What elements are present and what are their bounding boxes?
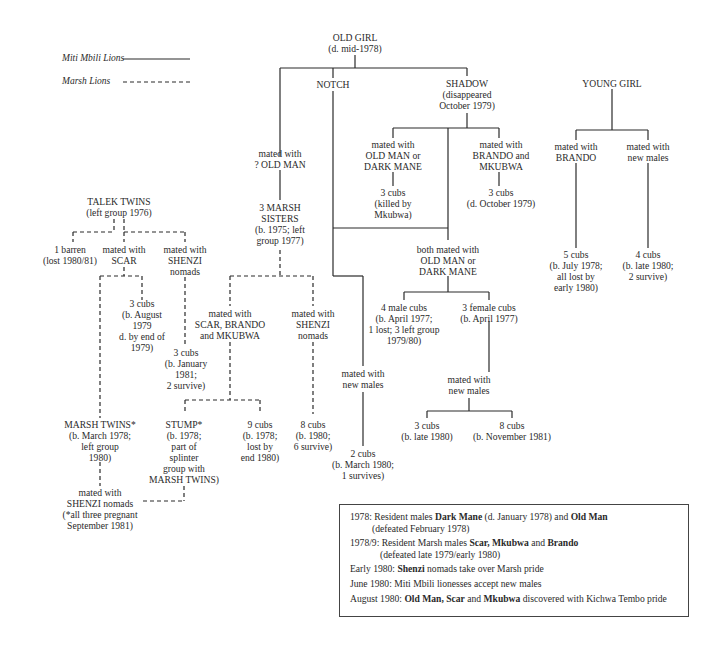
node-line: mated with: [473, 139, 530, 150]
node-mt-mated-shenzi: mated with SHENZI nomads (*all three pre…: [62, 487, 137, 531]
node-line: mated with: [555, 141, 598, 152]
note-bold: Brando: [547, 537, 578, 548]
node-line: SCAR: [103, 255, 146, 266]
node-line: (b. late 1980): [401, 431, 452, 442]
node-shadow-mated-old-man: mated with OLD MAN or DARK MANE: [364, 139, 422, 172]
node-line: SHENZI: [164, 255, 207, 266]
node-line: (b. March 1978;: [64, 430, 136, 441]
node-line: group with: [149, 463, 219, 474]
legend-label-marsh: Marsh Lions: [62, 76, 110, 86]
node-line: (b. 1975; left: [255, 224, 305, 235]
node-detail: October 1979): [439, 100, 495, 111]
node-line: SHENZI nomads: [62, 498, 137, 509]
node-notch: NOTCH: [316, 79, 349, 90]
node-line: (b. 1978;: [149, 430, 219, 441]
node-line: 4 cubs: [623, 249, 674, 260]
note-august-1980: August 1980: Old Man, Scar and Mkubwa di…: [350, 593, 682, 605]
node-line: group 1977): [255, 235, 305, 246]
node-line: 1 barren: [43, 244, 97, 255]
node-line: (b. August: [119, 309, 165, 320]
node-line: ? OLD MAN: [254, 159, 305, 170]
node-line: 1981;: [165, 369, 208, 380]
node-name: TALEK TWINS: [86, 196, 152, 207]
node-name: MARSH TWINS*: [64, 419, 136, 430]
node-tt-cubs-january: 3 cubs (b. January 1981; 2 survive): [165, 347, 208, 391]
node-line: all lost by: [549, 271, 602, 282]
node-line: (d. October 1979): [467, 198, 535, 209]
node-line: (killed by: [374, 198, 411, 209]
node-line: 3 MARSH: [255, 202, 305, 213]
node-line: 1979): [119, 342, 165, 353]
note-bold: Shenzi: [397, 563, 424, 574]
note-text: and: [465, 593, 484, 604]
node-old-girl: OLD GIRL (d. mid-1978): [328, 32, 381, 54]
note-text: discovered with Kichwa Tembo pride: [520, 593, 666, 604]
node-line: left group: [64, 441, 136, 452]
node-line: (b. 1978;: [241, 430, 280, 441]
node-fc-cubs-8: 8 cubs (b. November 1981): [473, 420, 551, 442]
node-yg-mated-new: mated with new males: [627, 141, 670, 163]
node-line: 3 cubs: [401, 420, 452, 431]
node-notch-cubs: 2 cubs (b. March 1980; 1 survives): [332, 448, 394, 481]
node-line: d. by end of: [119, 331, 165, 342]
node-ms-cubs-8: 8 cubs (b. 1980; 6 survive): [294, 419, 333, 452]
node-tt-cubs-august: 3 cubs (b. August 1979 d. by end of 1979…: [119, 298, 165, 353]
node-line: 5 cubs: [549, 249, 602, 260]
note-continuation: (defeated February 1978): [350, 523, 682, 535]
node-ms-cubs-9: 9 cubs (b. 1978; lost by end 1980): [241, 419, 280, 463]
node-barren: 1 barren (lost 1980/81): [43, 244, 97, 266]
node-line: 8 cubs: [473, 420, 551, 431]
node-line: BRANDO and: [473, 150, 530, 161]
node-line: 1979/80): [369, 335, 440, 346]
note-text: nomads take over Marsh pride: [425, 563, 544, 574]
node-line: (*all three pregnant: [62, 509, 137, 520]
note-june-1980: June 1980: Miti Mbili lionesses accept n…: [350, 578, 682, 590]
node-line: 3 cubs: [165, 347, 208, 358]
node-line: 1980): [64, 452, 136, 463]
node-line: 2 survive): [623, 271, 674, 282]
note-text: August 1980:: [350, 593, 404, 604]
node-line: (b. March 1980;: [332, 459, 394, 470]
node-line: new males: [342, 379, 385, 390]
node-line: SHENZI: [292, 319, 335, 330]
node-yg-cubs-5: 5 cubs (b. July 1978; all lost by early …: [549, 249, 602, 293]
node-line: (lost 1980/81): [43, 255, 97, 266]
node-line: DARK MANE: [364, 161, 422, 172]
node-shadow-mated-brando: mated with BRANDO and MKUBWA: [473, 139, 530, 172]
node-line: end 1980): [241, 452, 280, 463]
node-fc-cubs-3: 3 cubs (b. late 1980): [401, 420, 452, 442]
node-marsh-sisters: 3 MARSH SISTERS (b. 1975; left group 197…: [255, 202, 305, 246]
node-line: MKUBWA: [473, 161, 530, 172]
node-line: mated with: [292, 308, 335, 319]
node-line: early 1980): [549, 282, 602, 293]
note-bold: Old Man: [571, 511, 608, 522]
node-line: 2 survive): [165, 380, 208, 391]
node-both-mated: both mated with OLD MAN or DARK MANE: [417, 244, 479, 277]
node-line: new males: [627, 152, 670, 163]
timeline-notes-box: 1978: Resident males Dark Mane (d. Janua…: [339, 504, 689, 617]
node-line: 8 cubs: [294, 419, 333, 430]
node-line: SISTERS: [255, 213, 305, 224]
node-line: mated with: [342, 368, 385, 379]
node-line: mated with: [103, 244, 146, 255]
node-shadow-cubs-killed: 3 cubs (killed by Mkubwa): [374, 187, 411, 220]
node-line: 2 cubs: [332, 448, 394, 459]
node-ms-mated-shenzi: mated with SHENZI nomads: [292, 308, 335, 341]
note-bold: Mkubwa: [484, 593, 521, 604]
node-line: mated with: [195, 308, 265, 319]
node-line: mated with: [364, 139, 422, 150]
node-line: (b. April 1977;: [369, 313, 440, 324]
node-line: OLD MAN or: [417, 255, 479, 266]
node-name: SHADOW: [439, 78, 495, 89]
node-line: mated with: [62, 487, 137, 498]
node-line: mated with: [627, 141, 670, 152]
node-line: (b. July 1978;: [549, 260, 602, 271]
node-line: 3 cubs: [119, 298, 165, 309]
note-text: 1978: Resident males: [350, 511, 435, 522]
legend-label-miti-mbili: Miti Mbili Lions: [62, 53, 124, 63]
note-text: 1978/9: Resident Marsh males: [350, 537, 469, 548]
node-line: part of: [149, 441, 219, 452]
node-line: 9 cubs: [241, 419, 280, 430]
node-line: splinter: [149, 452, 219, 463]
node-line: 3 cubs: [374, 187, 411, 198]
